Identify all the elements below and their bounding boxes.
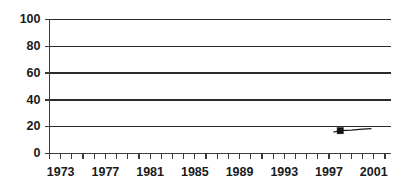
x-tick-label-1981: 1981 (136, 165, 164, 179)
x-tick-label-1977: 1977 (91, 165, 119, 179)
y-tick-label-80: 80 (27, 39, 41, 53)
data-point-marker-1 (337, 128, 343, 134)
y-tick-label-0: 0 (34, 146, 41, 160)
y-tick-label-60: 60 (27, 66, 41, 80)
x-tick-label-1997: 1997 (315, 165, 343, 179)
x-tick-label-1993: 1993 (270, 165, 298, 179)
x-tick-label-1985: 1985 (181, 165, 209, 179)
x-tick-label-2001: 2001 (360, 165, 388, 179)
y-tick-label-40: 40 (27, 93, 41, 107)
x-tick-label-1989: 1989 (226, 165, 254, 179)
y-axis-tick-labels: 020406080100 (20, 12, 41, 160)
y-tick-label-20: 20 (27, 119, 41, 133)
x-tick-label-1973: 1973 (47, 165, 75, 179)
y-tick-label-100: 100 (20, 12, 41, 26)
data-series (333, 128, 371, 134)
x-axis-tick-labels: 19731977198119851989199319972001 (47, 165, 388, 179)
line-chart: 020406080100 197319771981198519891993199… (0, 0, 408, 195)
chart-container: 020406080100 197319771981198519891993199… (0, 0, 408, 195)
gridlines (50, 20, 391, 127)
